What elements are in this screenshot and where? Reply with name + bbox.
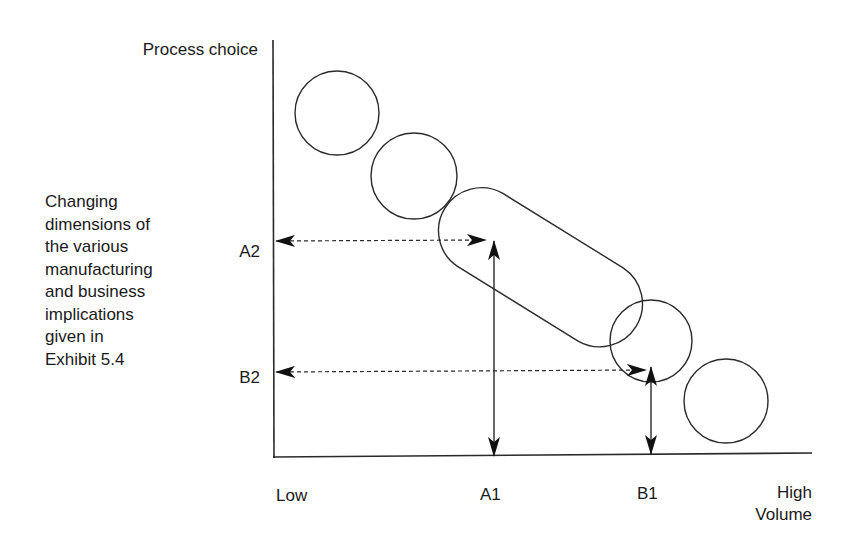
b2-dashed-arrow bbox=[276, 370, 646, 372]
y-tick-a2: A2 bbox=[220, 242, 260, 262]
y-axis bbox=[273, 40, 274, 458]
process-stadium bbox=[439, 188, 643, 347]
process-circle-1 bbox=[295, 71, 379, 155]
x-tick-high: High bbox=[712, 483, 812, 503]
x-tick-low: Low bbox=[276, 486, 307, 506]
x-tick-a1: A1 bbox=[480, 485, 501, 505]
description-line: implications bbox=[45, 304, 153, 327]
process-circle-5 bbox=[684, 359, 768, 443]
description-line: the various bbox=[45, 236, 153, 259]
description-line: Exhibit 5.4 bbox=[45, 349, 153, 372]
x-axis bbox=[273, 453, 812, 457]
description-line: and business bbox=[45, 281, 153, 304]
x-tick-b1: B1 bbox=[637, 484, 658, 504]
y-axis-title: Process choice bbox=[100, 40, 258, 60]
process-circle-2 bbox=[371, 133, 457, 219]
description-line: given in bbox=[45, 326, 153, 349]
y-tick-b2: B2 bbox=[220, 368, 260, 388]
description-line: Changing bbox=[45, 191, 153, 214]
description-line: dimensions of bbox=[45, 214, 153, 237]
x-axis-title: Volume bbox=[712, 505, 812, 525]
description-text: Changing dimensions of the various manuf… bbox=[45, 191, 153, 371]
description-line: manufacturing bbox=[45, 259, 153, 282]
a2-dashed-arrow bbox=[276, 240, 486, 241]
